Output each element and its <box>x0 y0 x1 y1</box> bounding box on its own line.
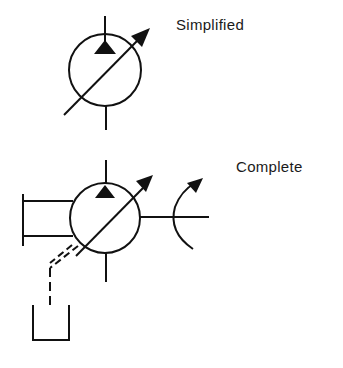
flow-triangle-icon <box>95 185 115 198</box>
flow-triangle-icon <box>94 40 116 54</box>
label-complete: Complete <box>236 158 303 175</box>
simplified-pump-symbol <box>64 16 150 130</box>
tank-icon <box>33 305 69 340</box>
rotation-arrowhead-icon <box>187 178 203 193</box>
variable-arrow-line <box>76 188 143 256</box>
label-simplified: Simplified <box>176 16 244 33</box>
arrowhead-icon <box>136 175 153 192</box>
diagram-canvas <box>0 0 343 368</box>
complete-pump-symbol <box>23 160 209 340</box>
drain-line-dashed <box>50 246 78 268</box>
